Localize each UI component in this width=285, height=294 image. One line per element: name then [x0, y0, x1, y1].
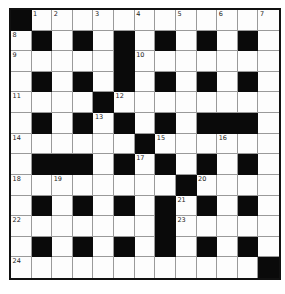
- grid-cell[interactable]: 9: [11, 51, 32, 72]
- grid-cell[interactable]: [238, 92, 259, 113]
- grid-cell[interactable]: [73, 10, 94, 31]
- grid-cell[interactable]: [197, 51, 218, 72]
- grid-cell[interactable]: [258, 92, 279, 113]
- grid-cell[interactable]: [217, 216, 238, 237]
- grid-cell[interactable]: 3: [93, 10, 114, 31]
- grid-cell[interactable]: 12: [114, 92, 135, 113]
- grid-cell[interactable]: [176, 92, 197, 113]
- grid-cell[interactable]: [11, 237, 32, 258]
- grid-cell[interactable]: [32, 134, 53, 155]
- grid-cell[interactable]: [114, 257, 135, 278]
- grid-cell[interactable]: [176, 257, 197, 278]
- grid-cell[interactable]: [52, 31, 73, 52]
- grid-cell[interactable]: [11, 72, 32, 93]
- grid-cell[interactable]: [11, 154, 32, 175]
- grid-cell[interactable]: 22: [11, 216, 32, 237]
- grid-cell[interactable]: [11, 196, 32, 217]
- grid-cell[interactable]: 7: [258, 10, 279, 31]
- grid-cell[interactable]: 15: [155, 134, 176, 155]
- grid-cell[interactable]: [135, 196, 156, 217]
- grid-cell[interactable]: [238, 175, 259, 196]
- grid-cell[interactable]: [32, 175, 53, 196]
- grid-cell[interactable]: 23: [176, 216, 197, 237]
- grid-cell[interactable]: [52, 257, 73, 278]
- grid-cell[interactable]: [238, 10, 259, 31]
- grid-cell[interactable]: 16: [217, 134, 238, 155]
- grid-cell[interactable]: [176, 31, 197, 52]
- grid-cell[interactable]: [135, 216, 156, 237]
- grid-cell[interactable]: [135, 72, 156, 93]
- grid-cell[interactable]: [73, 216, 94, 237]
- grid-cell[interactable]: [52, 51, 73, 72]
- grid-cell[interactable]: [32, 51, 53, 72]
- grid-cell[interactable]: [258, 134, 279, 155]
- grid-cell[interactable]: [73, 134, 94, 155]
- grid-cell[interactable]: [155, 10, 176, 31]
- grid-cell[interactable]: [155, 175, 176, 196]
- grid-cell[interactable]: [52, 216, 73, 237]
- grid-cell[interactable]: [52, 92, 73, 113]
- grid-cell[interactable]: [52, 196, 73, 217]
- grid-cell[interactable]: [93, 72, 114, 93]
- grid-cell[interactable]: [258, 113, 279, 134]
- grid-cell[interactable]: [93, 196, 114, 217]
- grid-cell[interactable]: [93, 31, 114, 52]
- grid-cell[interactable]: [258, 31, 279, 52]
- grid-cell[interactable]: [258, 216, 279, 237]
- grid-cell[interactable]: 2: [52, 10, 73, 31]
- grid-cell[interactable]: [217, 237, 238, 258]
- grid-cell[interactable]: [176, 113, 197, 134]
- grid-cell[interactable]: [32, 216, 53, 237]
- grid-cell[interactable]: [176, 154, 197, 175]
- grid-cell[interactable]: 8: [11, 31, 32, 52]
- grid-cell[interactable]: [155, 51, 176, 72]
- grid-cell[interactable]: [217, 72, 238, 93]
- grid-cell[interactable]: 4: [135, 10, 156, 31]
- grid-cell[interactable]: [197, 216, 218, 237]
- grid-cell[interactable]: [258, 72, 279, 93]
- grid-cell[interactable]: [217, 31, 238, 52]
- grid-cell[interactable]: [176, 134, 197, 155]
- grid-cell[interactable]: 24: [11, 257, 32, 278]
- grid-cell[interactable]: [238, 51, 259, 72]
- grid-cell[interactable]: 18: [11, 175, 32, 196]
- grid-cell[interactable]: [52, 72, 73, 93]
- grid-cell[interactable]: [73, 257, 94, 278]
- grid-cell[interactable]: [258, 154, 279, 175]
- grid-cell[interactable]: [135, 257, 156, 278]
- grid-cell[interactable]: [197, 92, 218, 113]
- grid-cell[interactable]: 6: [217, 10, 238, 31]
- grid-cell[interactable]: [52, 134, 73, 155]
- grid-cell[interactable]: [217, 92, 238, 113]
- grid-cell[interactable]: 10: [135, 51, 156, 72]
- grid-cell[interactable]: [52, 237, 73, 258]
- grid-cell[interactable]: [135, 237, 156, 258]
- grid-cell[interactable]: [258, 196, 279, 217]
- grid-cell[interactable]: [238, 134, 259, 155]
- grid-cell[interactable]: 17: [135, 154, 156, 175]
- grid-cell[interactable]: [197, 10, 218, 31]
- grid-cell[interactable]: [73, 175, 94, 196]
- grid-cell[interactable]: [238, 257, 259, 278]
- grid-cell[interactable]: [93, 51, 114, 72]
- grid-cell[interactable]: 20: [197, 175, 218, 196]
- grid-cell[interactable]: [176, 51, 197, 72]
- grid-cell[interactable]: [197, 134, 218, 155]
- grid-cell[interactable]: [155, 92, 176, 113]
- grid-cell[interactable]: [73, 92, 94, 113]
- grid-cell[interactable]: [176, 72, 197, 93]
- grid-cell[interactable]: [217, 196, 238, 217]
- grid-cell[interactable]: [135, 92, 156, 113]
- grid-cell[interactable]: [114, 134, 135, 155]
- grid-cell[interactable]: [217, 257, 238, 278]
- grid-cell[interactable]: 19: [52, 175, 73, 196]
- grid-cell[interactable]: [93, 237, 114, 258]
- grid-cell[interactable]: [135, 31, 156, 52]
- grid-cell[interactable]: 5: [176, 10, 197, 31]
- grid-cell[interactable]: 21: [176, 196, 197, 217]
- grid-cell[interactable]: [258, 237, 279, 258]
- grid-cell[interactable]: [238, 216, 259, 237]
- grid-cell[interactable]: [93, 154, 114, 175]
- grid-cell[interactable]: [217, 175, 238, 196]
- grid-cell[interactable]: [114, 216, 135, 237]
